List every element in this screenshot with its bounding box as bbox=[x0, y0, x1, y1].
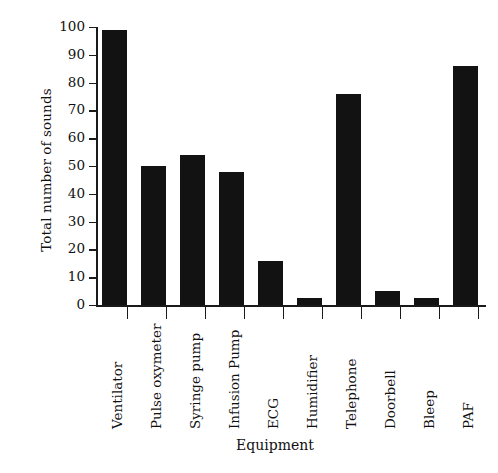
y-tick: 90 bbox=[89, 55, 96, 56]
x-category-label: Doorbell bbox=[383, 370, 397, 429]
x-category-label: Syringe pump bbox=[188, 333, 202, 429]
x-category-label: Ventilator bbox=[110, 362, 124, 429]
y-tick-label: 40 bbox=[68, 185, 85, 201]
x-category-label: Infusion Pump bbox=[227, 330, 241, 429]
y-tick: 50 bbox=[89, 166, 96, 167]
y-tick: 0 bbox=[89, 305, 96, 306]
x-tick bbox=[361, 306, 362, 319]
y-tick-label: 80 bbox=[68, 74, 85, 90]
y-tick: 60 bbox=[89, 138, 96, 139]
x-tick bbox=[322, 306, 323, 319]
bar bbox=[141, 166, 166, 305]
x-tick bbox=[244, 306, 245, 319]
x-tick bbox=[400, 306, 401, 319]
y-tick-label: 90 bbox=[68, 46, 85, 62]
y-tick-label: 50 bbox=[68, 157, 85, 173]
x-category-label: Humidifier bbox=[305, 355, 319, 429]
y-axis-line bbox=[96, 27, 98, 305]
bar bbox=[102, 30, 127, 305]
y-tick-label: 0 bbox=[76, 296, 85, 312]
y-tick: 100 bbox=[89, 27, 96, 28]
y-tick: 10 bbox=[89, 277, 96, 278]
x-category-label: Telephone bbox=[344, 359, 358, 429]
y-tick-label: 70 bbox=[68, 101, 85, 117]
x-category-label: Bleep bbox=[422, 390, 436, 429]
x-tick bbox=[205, 306, 206, 319]
y-tick-label: 20 bbox=[68, 240, 85, 256]
plot-area: 0102030405060708090100 bbox=[96, 27, 486, 305]
x-axis-title: Equipment bbox=[0, 437, 498, 453]
y-tick: 80 bbox=[89, 83, 96, 84]
x-category-label: PAF bbox=[461, 402, 475, 429]
y-tick: 40 bbox=[89, 194, 96, 195]
y-tick: 30 bbox=[89, 222, 96, 223]
bar bbox=[219, 172, 244, 305]
bar bbox=[414, 298, 439, 305]
y-axis-title: Total number of sounds bbox=[38, 60, 54, 280]
y-tick-label: 100 bbox=[59, 18, 85, 34]
y-tick-label: 60 bbox=[68, 129, 85, 145]
bar-chart-figure: Total number of sounds 01020304050607080… bbox=[0, 0, 498, 473]
bar bbox=[297, 298, 322, 305]
bar bbox=[258, 261, 283, 305]
bar bbox=[453, 66, 478, 305]
x-tick bbox=[166, 306, 167, 319]
x-category-label: Pulse oxymeter bbox=[149, 324, 163, 429]
x-tick bbox=[439, 306, 440, 319]
y-tick: 70 bbox=[89, 110, 96, 111]
x-category-label: ECG bbox=[266, 398, 280, 429]
x-axis-line bbox=[96, 305, 486, 307]
bar bbox=[336, 94, 361, 305]
x-tick bbox=[283, 306, 284, 319]
bar bbox=[375, 291, 400, 305]
x-tick bbox=[478, 306, 479, 319]
y-tick-label: 30 bbox=[68, 213, 85, 229]
y-tick-label: 10 bbox=[68, 268, 85, 284]
x-axis-title-text: Equipment bbox=[236, 437, 314, 453]
y-tick: 20 bbox=[89, 249, 96, 250]
bar bbox=[180, 155, 205, 305]
x-tick bbox=[127, 306, 128, 319]
